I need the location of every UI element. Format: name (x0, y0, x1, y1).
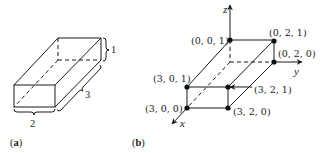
dimension-brace-height: 1 (103, 38, 116, 61)
figure-canvas: 1 3 2 (a) z y x (0, 0, 1) (0, 2, 1 (0, 0, 325, 153)
label-point-020: (0, 2, 0) (278, 48, 316, 59)
point-021 (271, 38, 276, 43)
brace-width-icon (14, 109, 55, 115)
label-point-001: (0, 0, 1) (191, 35, 229, 46)
label-point-301: (3, 0, 1) (153, 73, 191, 84)
height-label: 1 (111, 44, 116, 55)
dimension-brace-width: 2 (14, 109, 55, 129)
y-axis-label: y (293, 65, 299, 77)
edge-top-left-depth (187, 40, 230, 87)
point-301 (184, 84, 189, 89)
point-300 (184, 105, 189, 110)
length-label: 3 (85, 89, 90, 100)
box-front-face (14, 85, 55, 107)
label-point-021: (0, 2, 1) (269, 27, 307, 38)
box-hidden-depth-edge (14, 60, 58, 107)
edge-top-right-depth (228, 40, 274, 87)
box-front-face (187, 87, 228, 108)
caption-a: (a) (10, 137, 23, 149)
caption-b: (b) (132, 137, 145, 149)
z-axis-label: z (222, 3, 228, 15)
point-020 (271, 59, 276, 64)
box-right-side (55, 38, 101, 107)
label-point-320: (3, 2, 0) (233, 106, 271, 117)
point-320 (225, 105, 230, 110)
point-321 (225, 84, 230, 89)
brace-height-icon (103, 38, 109, 61)
x-axis-label: x (179, 117, 185, 129)
label-point-300: (3, 0, 0) (145, 103, 183, 114)
brace-length-icon (57, 65, 101, 111)
x-axis-hidden (187, 62, 230, 108)
label-point-321: (3, 2, 1) (254, 84, 292, 95)
dimension-brace-length: 3 (57, 65, 101, 111)
width-label: 2 (30, 118, 35, 129)
